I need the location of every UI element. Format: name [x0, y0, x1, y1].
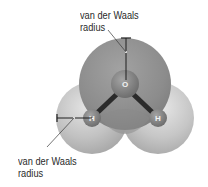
oxygen-symbol: O	[122, 80, 128, 89]
top-label-line2: radius	[80, 21, 139, 33]
hydrogen-right-symbol: H	[155, 114, 161, 123]
top-vdw-radius-label: van der Waals radius	[80, 9, 139, 33]
top-label-line1: van der Waals	[80, 9, 139, 21]
water-molecule-diagram: O H H van der Waals radius van der Waals…	[0, 0, 208, 187]
bottom-label-line2: radius	[18, 167, 77, 179]
bottom-vdw-radius-label: van der Waals radius	[18, 155, 77, 179]
bottom-label-line1: van der Waals	[18, 155, 77, 167]
